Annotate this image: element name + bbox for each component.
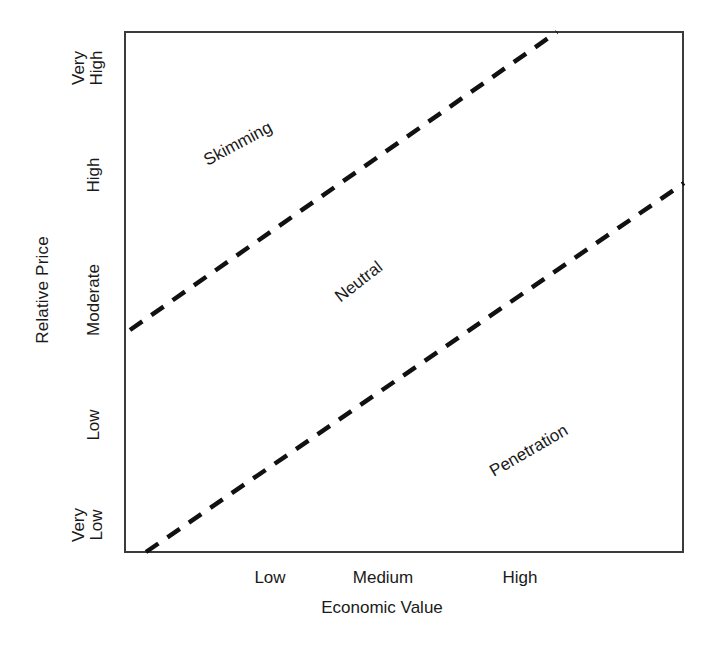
y-tick-moderate-label: Moderate	[84, 264, 103, 336]
y-tick-low-label: Low	[84, 409, 103, 440]
y-axis-title: Relative Price	[33, 236, 53, 344]
y-tick-high: High	[85, 158, 103, 193]
y-tick-very-low: Very Low	[70, 508, 107, 542]
y-tick-high-label: High	[84, 158, 103, 193]
x-axis-title: Economic Value	[321, 598, 443, 618]
y-tick-very-low-line2: Low	[88, 508, 106, 542]
y-tick-very-high-line1: Very	[69, 51, 88, 85]
plot-area-frame	[124, 31, 684, 553]
y-tick-moderate: Moderate	[85, 264, 103, 336]
y-tick-low: Low	[85, 409, 103, 440]
y-tick-very-high-line2: High	[88, 51, 106, 86]
pricing-strategy-chart: Relative Price Very High High Moderate L…	[0, 0, 718, 648]
x-tick-low: Low	[254, 568, 285, 588]
x-tick-high: High	[503, 568, 538, 588]
x-tick-medium: Medium	[353, 568, 413, 588]
y-tick-very-high: Very High	[70, 51, 107, 86]
y-tick-very-low-line1: Very	[69, 508, 88, 542]
